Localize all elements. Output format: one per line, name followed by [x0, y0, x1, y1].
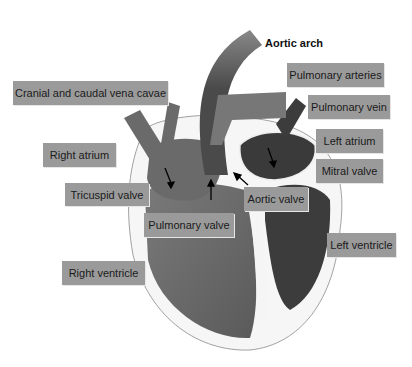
label-right-atrium: Right atrium: [43, 143, 116, 167]
label-right-ventricle: Right ventricle: [62, 261, 145, 285]
label-tricuspid-valve: Tricuspid valve: [65, 183, 149, 206]
label-pulmonary-vein: Pulmonary vein: [308, 95, 390, 119]
label-left-ventricle: Left ventricle: [327, 233, 396, 257]
label-mitral-valve: Mitral valve: [316, 159, 383, 183]
label-vena-cavae: Cranial and caudal vena cavae: [13, 81, 168, 105]
right-ventricle-shape: [145, 182, 256, 338]
label-pulmonary-arteries: Pulmonary arteries: [287, 63, 384, 87]
label-aortic-valve: Aortic valve: [244, 187, 308, 211]
label-left-atrium: Left atrium: [316, 129, 383, 153]
label-pulmonary-valve: Pulmonary valve: [144, 213, 234, 237]
heart-diagram: [0, 0, 412, 367]
label-aortic-arch: Aortic arch: [265, 37, 323, 49]
